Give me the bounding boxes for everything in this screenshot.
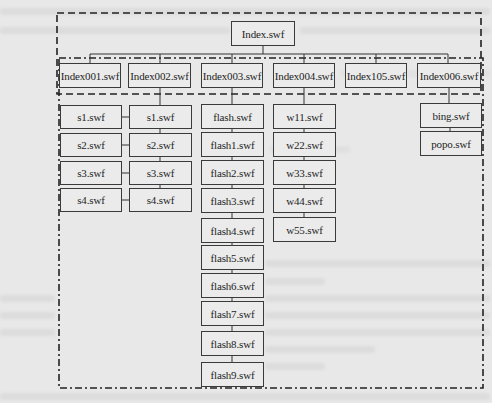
leaf-node: flash3.swf (201, 188, 264, 213)
node-label: s2.swf (77, 139, 105, 151)
leaf-node: flash.swf (201, 104, 264, 129)
node-label: s1.swf (77, 111, 105, 123)
level1-node: Index004.swf (273, 63, 335, 88)
node-label: flash5.swf (210, 252, 254, 264)
leaf-node: s1.swf (129, 105, 192, 129)
leaf-node: s2.swf (129, 133, 192, 157)
leaf-node: s3.swf (129, 161, 192, 185)
node-label: flash8.swf (210, 338, 254, 350)
leaf-node: w11.swf (273, 104, 336, 129)
node-label: Index004.swf (275, 70, 333, 82)
leaf-node: w22.swf (273, 132, 336, 157)
node-label: flash1.swf (210, 139, 254, 151)
swf-structure-diagram: Index.swf Index001.swf Index002.swf Inde… (0, 0, 492, 403)
node-label: w44.swf (286, 195, 323, 207)
leaf-node: bing.swf (420, 103, 482, 128)
node-label: flash9.swf (210, 369, 254, 381)
level1-node: Index001.swf (59, 63, 121, 88)
leaf-node: flash5.swf (201, 245, 264, 270)
node-label: s3.swf (147, 167, 175, 179)
leaf-node: w44.swf (273, 188, 336, 213)
leaf-node: flash8.swf (201, 331, 264, 356)
node-label: flash.swf (213, 111, 252, 123)
level1-node: Index105.swf (345, 63, 407, 88)
node-label: Index001.swf (61, 70, 119, 82)
node-label: flash4.swf (210, 225, 254, 237)
node-label: s4.swf (77, 194, 105, 206)
leaf-node: flash4.swf (201, 218, 264, 243)
node-label: Index002.swf (130, 70, 188, 82)
node-label: s4.swf (147, 194, 175, 206)
node-label: w11.swf (286, 111, 322, 123)
leaf-node: s4.swf (60, 188, 122, 212)
node-label: flash3.swf (210, 195, 254, 207)
node-label: s2.swf (147, 139, 175, 151)
leaf-node: flash6.swf (201, 273, 264, 298)
node-label: Index105.swf (347, 70, 405, 82)
node-label: w22.swf (286, 139, 323, 151)
node-label: w33.swf (286, 167, 323, 179)
leaf-node: flash7.swf (201, 301, 264, 326)
node-label: w55.swf (286, 224, 323, 236)
leaf-node: flash2.swf (201, 160, 264, 185)
leaf-node: w55.swf (273, 217, 336, 242)
node-label: popo.swf (431, 138, 470, 150)
node-label: Index003.swf (203, 70, 261, 82)
leaf-node: s4.swf (129, 188, 192, 212)
root-node: Index.swf (231, 21, 295, 46)
level1-node: Index002.swf (128, 63, 191, 88)
node-label: flash7.swf (210, 308, 254, 320)
node-label: Index.swf (242, 28, 284, 40)
node-label: s3.swf (77, 167, 105, 179)
level1-node: Index003.swf (201, 63, 263, 88)
node-label: flash6.swf (210, 280, 254, 292)
leaf-node: s2.swf (60, 133, 122, 157)
leaf-node: flash9.swf (201, 362, 264, 387)
leaf-node: w33.swf (273, 160, 336, 185)
leaf-node: s3.swf (60, 161, 122, 185)
level1-node: Index006.swf (417, 63, 481, 88)
leaf-node: popo.swf (420, 131, 482, 156)
leaf-node: flash1.swf (201, 132, 264, 157)
node-label: Index006.swf (420, 70, 478, 82)
leaf-node: s1.swf (60, 105, 122, 129)
node-label: flash2.swf (210, 167, 254, 179)
node-label: bing.swf (433, 110, 470, 122)
node-label: s1.swf (147, 111, 175, 123)
